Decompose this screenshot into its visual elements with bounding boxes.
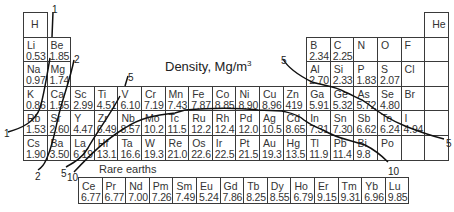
chart-title-text: Density, Mg/m [165,59,247,74]
element-cell: Na0.97 [23,61,48,87]
element-symbol: H [31,19,39,30]
element-cell: Cs1.90 [23,135,48,161]
element-cell: Mn7.43 [165,86,190,112]
contour-value-label: 5 [61,168,67,179]
contour-value-label: 2 [74,54,80,65]
element-density: 7.31 [309,124,329,135]
element-cell: W19.3 [141,135,166,161]
element-cell: Tc11.5 [165,110,190,136]
element-density: 6.77 [81,192,101,203]
rare-earths-label: Rare earths [99,163,156,175]
element-density: 6.49 [97,124,117,135]
element-cell: Br [401,86,426,112]
element-density: 419 [286,100,303,111]
element-density: 8.96 [262,100,282,111]
element-density: 0.53 [26,51,46,62]
element-cell: Os22.6 [188,135,213,161]
element-cell: Mg1.74 [47,61,72,87]
element-density: 8.57 [120,124,140,135]
element-symbol: Po [381,138,394,149]
element-density: 9.8 [356,149,370,160]
element-cell: Ni8.90 [235,86,260,112]
element-cell: Mo10.2 [141,110,166,136]
element-density: 7.43 [168,100,188,111]
element-cell: He [424,12,449,38]
rare-earth-cell: Yb6.96 [361,177,386,204]
element-density: 5.91 [309,100,329,111]
contour-value-label: 10 [388,166,399,177]
element-density: 13.5 [286,149,306,160]
element-cell: Cd8.65 [283,110,308,136]
element-cell: C2.25 [330,37,355,63]
element-symbol: Be [51,40,64,51]
contour-value-label: 10 [67,172,78,183]
element-cell: Ge5.32 [330,86,355,112]
element-cell: Li0.53 [23,37,48,63]
element-density: 12.4 [215,124,235,135]
element-cell: P1.83 [353,61,378,87]
empty-cell [424,110,449,136]
element-cell: Ba3.50 [47,135,72,161]
element-symbol: He [432,19,445,30]
element-cell: Re21.0 [165,135,190,161]
element-density: 22.5 [215,149,235,160]
element-density: 1.90 [26,149,46,160]
element-cell: F [401,37,426,63]
element-density: 6.96 [364,192,384,203]
element-density: 7.86 [223,192,243,203]
element-symbol: C [334,40,342,51]
element-cell: Au19.3 [259,135,284,161]
element-cell: Al2.70 [306,61,331,87]
rare-earth-cell: Pm7.26 [149,177,174,204]
element-density: 8.90 [238,100,258,111]
element-cell: Pt21.5 [235,135,260,161]
rare-earth-cell: Tb8.25 [243,177,268,204]
element-density: 9.31 [341,192,361,203]
element-density: 11.5 [168,124,187,135]
element-symbol: F [405,40,411,51]
element-cell: Cr7.19 [141,86,166,112]
rare-earth-cell: Ce6.77 [78,177,103,204]
element-cell: Be1.85 [47,37,72,63]
element-symbol: N [357,40,365,51]
element-cell: Cl [401,61,426,87]
element-density: 13.1 [97,149,117,160]
element-cell: H [23,12,48,38]
contour-value-label: 5 [128,72,134,83]
element-density: 9.15 [317,192,337,203]
element-cell: Hg13.5 [283,135,308,161]
element-density: 11.4 [333,149,352,160]
rare-earth-cell: Lu9.85 [385,177,410,204]
element-density: 8.85 [215,100,235,111]
element-cell: Ru12.2 [188,110,213,136]
element-cell: B2.34 [306,37,331,63]
element-density: 21.0 [168,149,188,160]
element-density: 7.49 [175,192,195,203]
element-density: 5.24 [199,192,219,203]
element-density: 6.79 [293,192,313,203]
element-cell: Pd12.0 [235,110,260,136]
element-density: 22.6 [191,149,211,160]
element-density: 7.26 [152,192,172,203]
element-cell: Te6.24 [377,110,402,136]
element-density: 5.72 [356,100,376,111]
element-density: 1.53 [26,124,46,135]
element-cell: Pb11.4 [330,135,355,161]
element-cell: S2.07 [377,61,402,87]
empty-cell [424,37,449,63]
element-density: 7.30 [333,124,353,135]
element-density: 11.9 [309,149,328,160]
rare-earth-cell: Nd7.00 [125,177,150,204]
element-cell: K0.86 [23,86,48,112]
element-density: 4.47 [73,124,93,135]
element-cell: Nb8.57 [117,110,142,136]
element-cell: In7.31 [306,110,331,136]
element-density: 1.83 [356,75,376,86]
element-density: 1.74 [50,75,70,86]
element-cell: As5.72 [353,86,378,112]
element-density: 3.50 [50,149,70,160]
rare-earth-cell: Gd7.86 [220,177,245,204]
rare-earth-cell: Er9.15 [314,177,339,204]
element-cell: Fe7.87 [188,86,213,112]
element-cell: Sn7.30 [330,110,355,136]
